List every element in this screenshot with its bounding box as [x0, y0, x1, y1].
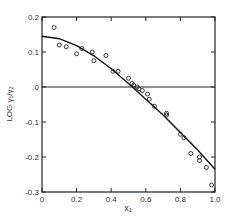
- data-point: [116, 69, 120, 73]
- x-axis-label: x₁: [124, 203, 132, 213]
- data-point: [140, 89, 144, 93]
- data-point: [204, 166, 208, 170]
- x-tick-label: 0.4: [106, 195, 118, 204]
- y-tick-label: 0.2: [28, 13, 40, 22]
- x-tick-label: 0.6: [140, 195, 152, 204]
- data-point: [64, 45, 68, 49]
- data-point: [104, 54, 108, 58]
- data-points: [52, 26, 213, 188]
- y-axis-label: LOG γ₁/γ₂: [5, 86, 14, 121]
- y-tick-label: 0.1: [28, 48, 40, 57]
- x-tick-label: 0.8: [175, 195, 187, 204]
- y-tick-label: -0.1: [25, 118, 39, 127]
- y-axis-ticks: 0.20.10-0.1-0.2-0.3: [25, 13, 215, 197]
- y-tick-label: -0.3: [25, 188, 39, 197]
- data-point: [52, 26, 56, 30]
- y-tick-label: -0.2: [25, 153, 39, 162]
- data-point: [189, 152, 193, 156]
- plot-frame: [42, 17, 215, 192]
- data-point: [147, 97, 151, 101]
- data-point: [146, 92, 150, 96]
- data-point: [90, 50, 94, 54]
- x-tick-label: 0: [40, 195, 45, 204]
- data-point: [75, 52, 79, 56]
- fit-curve: [42, 36, 215, 169]
- data-point: [127, 76, 131, 80]
- data-point: [57, 43, 61, 47]
- data-point: [210, 183, 214, 187]
- x-tick-label: 1.0: [209, 195, 221, 204]
- y-tick-label: 0: [35, 83, 40, 92]
- chart-container: 0.20.10-0.1-0.2-0.3 00.20.40.60.81.0 x₁ …: [0, 0, 229, 217]
- data-point: [92, 59, 96, 63]
- scatter-plot: 0.20.10-0.1-0.2-0.3 00.20.40.60.81.0 x₁ …: [0, 0, 229, 217]
- x-tick-label: 0.2: [71, 195, 83, 204]
